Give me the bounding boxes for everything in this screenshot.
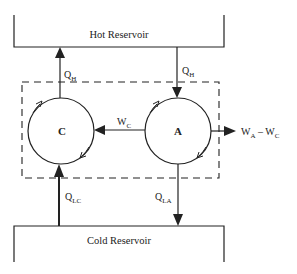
qla-label: QLA xyxy=(155,191,172,205)
flow-qh-a: QH xyxy=(172,47,194,98)
qh-c-label: QH xyxy=(64,69,76,83)
wc-label: WC xyxy=(117,116,131,130)
cycle-arrow-icon xyxy=(33,104,40,113)
net-work-label: WA – WC xyxy=(241,126,280,140)
flow-wc: WC xyxy=(94,116,145,135)
arrow-down-icon xyxy=(172,87,182,98)
cycle-arrow-icon xyxy=(150,104,157,113)
heat-engine-diagram: Hot Reservoir Cold Reservoir C A QH QH xyxy=(0,0,297,274)
cycle-arrow-icon xyxy=(199,147,206,156)
arrow-left-icon xyxy=(94,125,105,135)
cycle-arrow-icon xyxy=(82,147,89,156)
qh-a-label: QH xyxy=(182,65,194,79)
engine-c: C xyxy=(28,98,94,164)
arrow-right-icon xyxy=(224,126,236,136)
hot-reservoir: Hot Reservoir xyxy=(14,15,224,47)
arrow-down-icon xyxy=(173,214,183,226)
arrow-up-icon xyxy=(55,47,65,58)
qlc-label: QLC xyxy=(65,191,82,205)
flow-net-work: WA – WC xyxy=(211,126,280,140)
flow-qh-c: QH xyxy=(55,47,76,98)
hot-reservoir-label: Hot Reservoir xyxy=(89,29,149,40)
cold-reservoir: Cold Reservoir xyxy=(14,226,224,262)
flow-qla: QLA xyxy=(155,164,183,226)
arrow-up-icon xyxy=(54,164,64,177)
flow-qlc: QLC xyxy=(54,164,82,226)
engine-c-label: C xyxy=(58,125,66,137)
engine-a: A xyxy=(145,98,211,164)
engine-a-label: A xyxy=(174,125,182,137)
cold-reservoir-label: Cold Reservoir xyxy=(87,235,151,246)
